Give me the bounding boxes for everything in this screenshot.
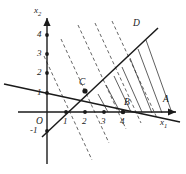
- y-tick-label-1: 1: [37, 88, 42, 97]
- hatch-line-1: [98, 94, 108, 112]
- y-tick-label-4: 4: [37, 30, 42, 39]
- y-tick-label-2: 2: [37, 68, 42, 77]
- x-tick-dot-2: [83, 110, 87, 114]
- x-tick-label-1: 1: [63, 117, 68, 126]
- point-B-marker: [121, 110, 125, 114]
- x-tick-label-2: 2: [82, 117, 87, 126]
- y-tick-label-neg1: -1: [30, 126, 38, 135]
- y-axis-arrowhead: [43, 18, 50, 26]
- objective-function-dashed-lines: [44, 21, 157, 160]
- point-label-A: A: [163, 95, 169, 105]
- objective-dashed-line-1: [44, 56, 92, 160]
- x-axis: [18, 108, 176, 115]
- x-tick-dot-3: [102, 110, 106, 114]
- hatch-line-5: [130, 58, 152, 113]
- point-label-B: B: [124, 98, 130, 108]
- graph-canvas: [0, 0, 186, 174]
- x-tick-label-3: 3: [101, 117, 106, 126]
- y-tick-label-3: 3: [37, 49, 42, 58]
- y-axis: [43, 18, 50, 164]
- point-label-D: D: [133, 19, 140, 29]
- x-tick-label-4: 4: [120, 117, 125, 126]
- x-axis-label: x1: [160, 118, 167, 129]
- y-tick-dot-3: [45, 52, 49, 56]
- y-axis-label-subscript: 2: [38, 10, 41, 17]
- point-label-C: C: [79, 78, 85, 88]
- graph-figure: x2 x1 O 4 3 2 1 -1 1 2 3 4 A B C D: [0, 0, 186, 174]
- x-axis-arrowhead: [168, 108, 176, 115]
- y-tick-dot-2: [45, 71, 49, 75]
- y-tick-dot-4: [45, 33, 49, 37]
- x-axis-label-subscript: 1: [164, 122, 167, 129]
- point-C-marker: [82, 88, 87, 93]
- y-axis-label: x2: [34, 6, 41, 17]
- feasible-region-hatching: [98, 40, 172, 113]
